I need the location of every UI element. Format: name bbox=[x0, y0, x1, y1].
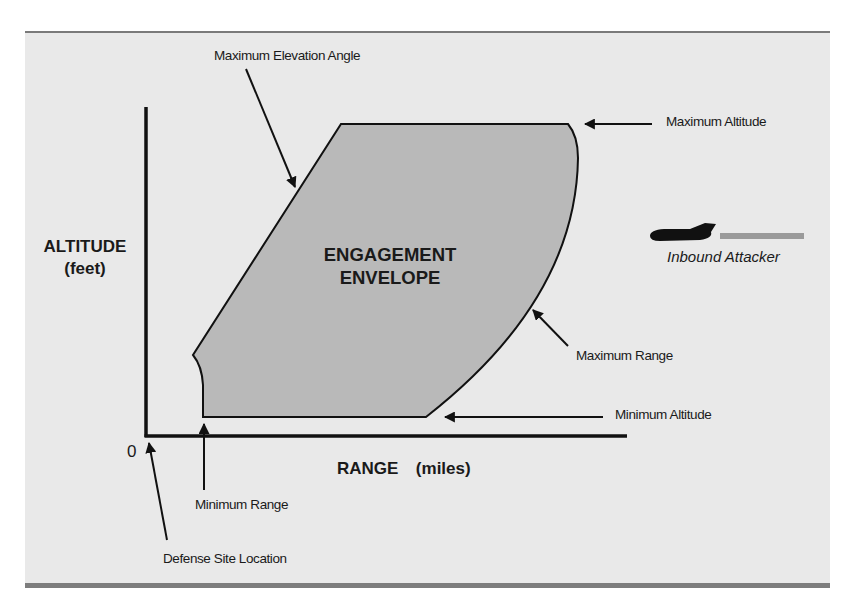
label-min-range: Minimum Range bbox=[195, 497, 288, 512]
envelope-label-line2: ENVELOPE bbox=[300, 266, 480, 289]
envelope-label: ENGAGEMENT ENVELOPE bbox=[300, 243, 480, 289]
defense-site-arrow bbox=[149, 443, 167, 540]
max-elevation-arrow bbox=[246, 69, 295, 187]
label-defense-site: Defense Site Location bbox=[163, 551, 287, 566]
envelope-label-line1: ENGAGEMENT bbox=[300, 243, 480, 266]
x-axis-title: RANGE (miles) bbox=[337, 459, 471, 479]
y-axis-title: ALTITUDE (feet) bbox=[40, 236, 130, 280]
x-axis-label: RANGE bbox=[337, 459, 398, 478]
engagement-diagram bbox=[0, 0, 858, 611]
label-max-range: Maximum Range bbox=[576, 348, 673, 363]
legend-attacker-label: Inbound Attacker bbox=[667, 248, 780, 265]
y-axis-label: ALTITUDE bbox=[40, 236, 130, 258]
label-max-elevation-angle: Maximum Elevation Angle bbox=[214, 48, 360, 63]
x-axis-origin: 0 bbox=[127, 442, 136, 462]
x-axis-unit: (miles) bbox=[416, 459, 471, 478]
attacker-trail bbox=[720, 233, 804, 239]
label-min-altitude: Minimum Altitude bbox=[615, 407, 711, 422]
jet-aircraft-icon bbox=[650, 223, 716, 241]
max-range-arrow bbox=[533, 310, 568, 346]
y-axis-unit: (feet) bbox=[40, 258, 130, 280]
label-max-altitude: Maximum Altitude bbox=[666, 114, 766, 129]
